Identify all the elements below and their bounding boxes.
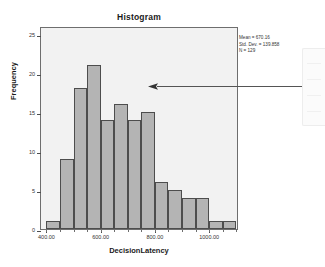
x-minor-tick bbox=[182, 229, 183, 232]
y-tick-mark bbox=[37, 231, 41, 232]
side-panel-line bbox=[307, 79, 321, 80]
bars-container bbox=[41, 28, 237, 229]
x-tick-label: 800.00 bbox=[146, 234, 163, 240]
x-minor-tick bbox=[155, 229, 156, 232]
histogram-bar bbox=[196, 198, 210, 229]
histogram-bar bbox=[209, 221, 223, 229]
x-minor-tick bbox=[87, 229, 88, 232]
histogram-bar bbox=[168, 190, 182, 229]
x-minor-tick bbox=[128, 229, 129, 232]
side-panel-line bbox=[307, 95, 321, 96]
x-minor-tick bbox=[168, 229, 169, 232]
x-minor-tick bbox=[114, 229, 115, 232]
x-axis-title: DecisionLatency bbox=[40, 246, 238, 255]
side-panel[interactable] bbox=[302, 48, 325, 126]
histogram-bar bbox=[141, 112, 155, 229]
x-minor-tick bbox=[196, 229, 197, 232]
statistics-annotation: Mean = 670.16 Std. Dev. = 139.858 N = 12… bbox=[239, 35, 279, 55]
side-panel-line bbox=[307, 111, 321, 112]
histogram-bar bbox=[223, 221, 237, 229]
x-tick-label: 600.00 bbox=[92, 234, 109, 240]
y-tick-mark bbox=[37, 153, 41, 154]
x-minor-tick bbox=[74, 229, 75, 232]
histogram-bar bbox=[60, 159, 74, 229]
x-minor-tick bbox=[141, 229, 142, 232]
x-minor-tick bbox=[101, 229, 102, 232]
stat-n: N = 129 bbox=[239, 48, 279, 55]
x-tick-label: 400.00 bbox=[38, 234, 55, 240]
x-minor-tick bbox=[209, 229, 210, 232]
y-tick-mark bbox=[37, 114, 41, 115]
x-minor-tick bbox=[223, 229, 224, 232]
side-panel-line bbox=[307, 63, 321, 64]
histogram-bar bbox=[46, 221, 60, 229]
y-tick-label: 10 bbox=[29, 149, 35, 155]
histogram-bar bbox=[74, 88, 88, 229]
y-tick-label: 25 bbox=[29, 32, 35, 38]
chart-title: Histogram bbox=[40, 12, 238, 22]
histogram-bar bbox=[128, 120, 142, 229]
x-tick-label: 1000.00 bbox=[199, 234, 219, 240]
y-axis-title: Frequency bbox=[9, 62, 18, 100]
histogram-figure: Histogram 0510152025 400.00600.00800.001… bbox=[0, 0, 260, 267]
y-tick-label: 20 bbox=[29, 71, 35, 77]
y-tick-label: 0 bbox=[32, 227, 35, 233]
histogram-bar bbox=[182, 198, 196, 229]
plot-area: 0510152025 400.00600.00800.001000.00 bbox=[40, 27, 238, 230]
x-minor-tick bbox=[46, 229, 47, 232]
x-minor-tick bbox=[60, 229, 61, 232]
y-tick-label: 15 bbox=[29, 110, 35, 116]
histogram-bar bbox=[155, 182, 169, 229]
y-tick-mark bbox=[37, 36, 41, 37]
histogram-bar bbox=[114, 104, 128, 229]
y-tick-mark bbox=[37, 75, 41, 76]
histogram-bar bbox=[101, 120, 115, 229]
histogram-bar bbox=[87, 65, 101, 229]
x-minor-tick bbox=[236, 229, 237, 232]
screenshot-root: Histogram 0510152025 400.00600.00800.001… bbox=[0, 0, 325, 267]
plot-inner bbox=[41, 28, 237, 229]
y-tick-label: 5 bbox=[32, 188, 35, 194]
y-tick-mark bbox=[37, 192, 41, 193]
